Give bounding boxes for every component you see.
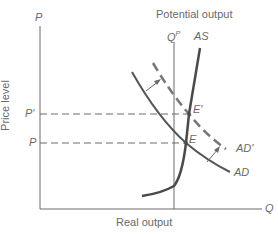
e-prime-label: E' [193,104,202,115]
e-label: E [189,134,196,145]
potential-output-symbol: QP [167,30,180,43]
y-axis-symbol: P [35,12,42,23]
as-label: AS [194,31,209,42]
p-label: P [29,137,36,148]
ad-as-diagram [0,0,278,235]
p-prime-label: P' [25,108,34,119]
point-e-prime [187,112,191,116]
ad-curve [132,72,230,172]
y-axis-label: Price level [0,80,11,131]
as-curve [142,48,200,196]
ad-shifted-label: AD' [236,143,253,154]
point-e [184,141,188,145]
x-axis-label: Real output [116,217,172,228]
potential-output-title: Potential output [156,9,232,20]
ad-label: AD [234,167,249,178]
x-axis-symbol: Q [265,203,274,214]
